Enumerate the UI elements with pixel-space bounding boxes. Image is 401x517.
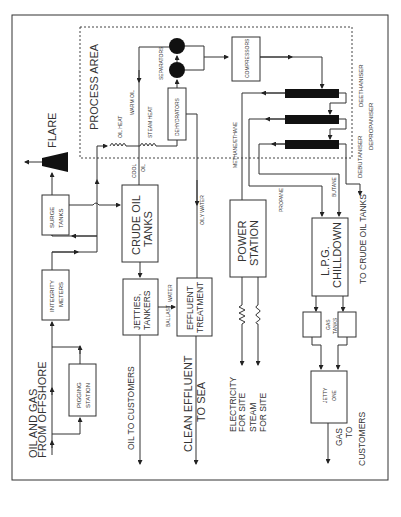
flare-icon [42,152,68,172]
cool-label: COOL [131,164,137,178]
offshore-label-2: FROM OFFSHORE [36,361,48,458]
dehydrators-label: DEHYDRATORS [174,97,180,136]
ballast-label: BALLAST [165,305,171,327]
cool-oil-label: OIL [140,164,146,172]
integrity-label-2: METERS [58,282,64,307]
oil-to-customers-label: OIL TO CUSTOMERS [126,366,136,450]
effluent-label-2: TREATMENT [195,282,205,333]
pigging-station-box [69,364,96,416]
steam-label-1: STEAM [248,403,258,432]
process-area-label: PROCESS AREA [88,43,100,130]
gas-tanks-label-1: GAS [325,319,331,330]
deethaniser-label: DEETHANISER [358,64,364,107]
propane-label: PROPANE [278,187,284,212]
pigging-label-1: PIGGING [76,382,82,408]
warm-oil-label: WARM OIL [129,90,135,115]
electricity-label-2: FOR SITE [237,392,247,432]
jetty-one-box [311,371,347,423]
gas-tank-1-box [303,312,321,337]
steam-label-2: FOR SITE [258,392,268,432]
separator-bottom-icon [169,62,185,78]
lpg-label-1: L.P.G. [319,246,331,276]
surge-tanks-label-1: SURGE [49,207,55,228]
gas-label: GAS [334,428,344,446]
water-label: WATER [167,284,173,302]
integrity-label-1: INTEGRITY [49,280,55,312]
steam-heat-coil-icon [140,144,156,147]
depropaniser-column-icon [285,115,339,124]
surge-tanks-box [42,195,69,235]
flare-label: FLARE [46,113,58,148]
clean-effluent-label: CLEAN EFFLUENT [182,355,194,452]
jetties-label-1: JETTIES, [132,294,142,330]
gas-tank-2-box [338,312,356,337]
oily-water-label: OILY WATER [199,195,205,225]
separators-label: SEPARATORS [158,46,164,80]
surge-tanks-label-2: TANKS [58,208,64,228]
to-sea-label: TO SEA [195,381,207,422]
electricity-resistor-icon [239,305,245,324]
depropaniser-label: DEPROPANISER [368,102,374,150]
debutaniser-label: DEBUTANISER [357,135,363,178]
process-flow-diagram: PROCESS AREA FLARE SURGE TANKS OIL HEAT … [0,0,401,517]
to-crude-oil-tanks-label: TO CRUDE OIL TANKS [358,194,368,284]
integrity-meters-box [42,270,69,320]
customers-label: CUSTOMERS [357,412,367,466]
jetties-label-2: TANKERS [142,290,152,330]
compressors-label: COMPRESSORS [244,38,250,78]
jetty-one-label-1: JETTY [322,387,328,403]
pigging-label-2: STATION [85,383,91,408]
power-station-label-2: STATION [248,220,260,266]
butane-label: BUTANE [331,176,337,197]
oil-heat-label: OIL HEAT [117,116,123,138]
power-station-label-1: POWER [236,220,248,262]
deethaniser-column-icon [285,89,339,98]
steam-heat-label: STEAM HEAT [147,106,153,138]
lpg-label-2: CHILLDOWN [331,222,343,288]
oil-heat-coil-icon [110,144,126,147]
separator-top-icon [169,38,185,54]
crude-oil-tanks-label-1: CRUDE OIL [130,195,142,255]
jetty-one-label-2: ONE [331,390,337,402]
effluent-label-1: EFFLUENT [185,286,195,330]
debutaniser-column-icon [285,140,339,149]
methane-ethane-label: METHANE/ETHANE [232,121,238,168]
gas-tanks-label-2: TANKS [332,317,338,334]
to-label: TO [344,426,354,438]
steam-coil-icon [256,305,260,324]
crude-oil-tanks-label-2: TANKS [142,211,154,247]
